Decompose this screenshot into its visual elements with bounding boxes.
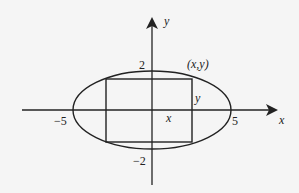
rect-height-label: y [194, 91, 201, 105]
tick-x-neg: −5 [54, 114, 67, 128]
tick-x-pos: 5 [232, 114, 238, 128]
tick-y-neg: −2 [133, 154, 146, 168]
diagram-svg: y x 2 −2 −5 5 (x,y) y x [0, 0, 299, 193]
tick-y-pos: 2 [139, 58, 145, 72]
rect-width-label: x [165, 111, 172, 125]
point-label: (x,y) [187, 57, 209, 71]
y-axis-label: y [163, 14, 170, 28]
diagram-canvas: y x 2 −2 −5 5 (x,y) y x [0, 0, 299, 193]
x-axis-label: x [278, 113, 285, 127]
